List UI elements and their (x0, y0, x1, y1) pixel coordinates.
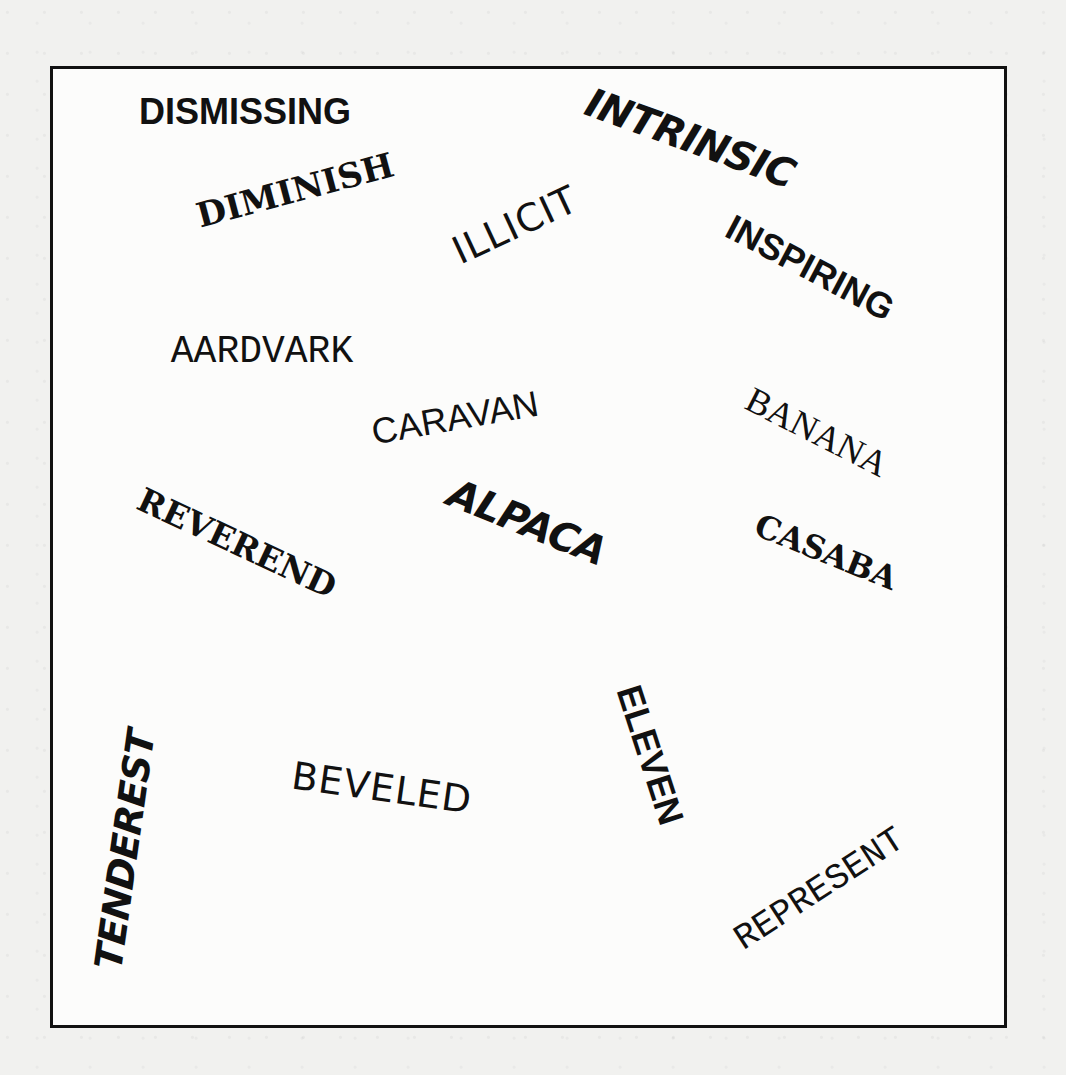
word-aardvark: AARDVARK (171, 333, 353, 371)
word-dismissing: DISMISSING (139, 94, 351, 130)
